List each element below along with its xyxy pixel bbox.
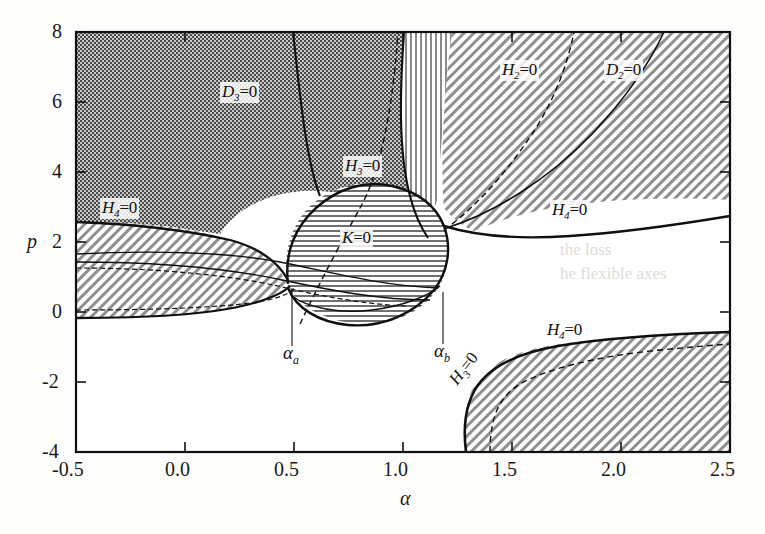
y-tick-2: 2 [52,230,62,253]
x-tick-1p5: 1.5 [492,458,517,481]
label-H4lr-base: H [547,320,559,339]
label-K-base: K [342,228,353,247]
y-tick-6: 6 [52,90,62,113]
label-H3c-base: H [345,156,357,175]
alpha-b-symbol: α [434,340,444,361]
x-tick-1p0: 1.0 [383,458,408,481]
alpha-a-label: αa [283,342,299,368]
label-H4lr-eq: =0 [564,320,582,339]
label-H2-base: H [502,60,514,79]
label-K-center: K=0 [340,228,373,249]
label-D3-eq-0: D3=0 [220,82,259,103]
y-tick-8: 8 [52,20,62,43]
figure-page: 8 6 4 2 0 -2 -4 p -0.5 0.0 0.5 1.0 1.5 2… [0,0,765,534]
label-D2-eq: =0 [623,60,641,79]
y-tick-neg2: -2 [42,370,59,393]
label-H3-center: H3=0 [343,156,382,177]
label-H4r-base: H [552,200,564,219]
label-K-eq: =0 [353,228,371,247]
label-D2: D2=0 [604,60,643,81]
label-H2: H2=0 [500,60,539,81]
alpha-a-symbol: α [283,342,293,363]
x-tick-0p0: 0.0 [165,458,190,481]
label-H4ul-base: H [102,198,114,217]
x-axis-title: α [400,487,411,510]
phase-diagram-plot [0,0,765,534]
y-tick-0: 0 [52,300,62,323]
label-H2-eq: =0 [519,60,537,79]
label-H4-right: H4=0 [550,200,589,221]
alpha-b-subscript: b [444,351,450,365]
label-H3c-eq: =0 [362,156,380,175]
label-H4-lower-right: H4=0 [545,320,584,341]
y-axis-title: p [27,230,37,253]
label-D3-base: D [222,82,234,101]
label-H4-upper-left: H4=0 [100,198,139,219]
x-tick-2p0: 2.0 [601,458,626,481]
x-tick-neg0p5: -0.5 [52,458,84,481]
label-H4ul-eq: =0 [119,198,137,217]
y-tick-4: 4 [52,160,62,183]
x-tick-0p5: 0.5 [274,458,299,481]
label-H4r-eq: =0 [569,200,587,219]
x-tick-2p5: 2.5 [710,458,735,481]
alpha-b-label: αb [434,340,450,366]
label-D3-eq: =0 [239,82,257,101]
label-D2-base: D [606,60,618,79]
alpha-a-subscript: a [293,353,299,367]
